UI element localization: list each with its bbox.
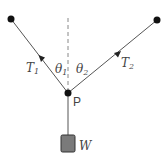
rope-t2	[68, 20, 157, 93]
point-p-dot	[65, 90, 72, 97]
theta2-label: θ2	[76, 62, 88, 77]
t1-label: T1	[26, 61, 39, 76]
theta1-label: θ1	[55, 62, 67, 77]
weight-box	[61, 135, 75, 152]
left-anchor-dot	[8, 16, 15, 23]
t2-label: T2	[121, 56, 134, 71]
force-diagram: T1 T2 θ1 θ2 P W	[0, 0, 166, 161]
weight-label: W	[79, 139, 93, 153]
point-p-label: P	[73, 95, 81, 109]
right-anchor-dot	[154, 17, 161, 24]
t1-arrow-icon	[39, 55, 46, 62]
